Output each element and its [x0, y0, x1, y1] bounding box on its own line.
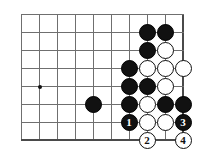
stone-white — [157, 78, 174, 95]
stone-white — [157, 60, 174, 77]
move-stone-white-4: 4 — [175, 132, 192, 149]
stone-white — [139, 114, 156, 131]
stone-black — [139, 42, 156, 59]
go-board: 1324 — [0, 0, 198, 158]
board-edge-line-horizontal — [21, 139, 185, 141]
stone-black — [121, 60, 138, 77]
move-stone-white-2: 2 — [139, 132, 156, 149]
stone-white — [139, 96, 156, 113]
move-stone-black-3: 3 — [175, 114, 192, 131]
stone-white — [157, 42, 174, 59]
stone-black — [121, 78, 138, 95]
move-number-label: 2 — [144, 134, 150, 145]
move-number-label: 4 — [180, 134, 186, 145]
hoshi-star-point — [38, 85, 42, 89]
stone-white — [157, 114, 174, 131]
stone-black — [139, 24, 156, 41]
stone-black — [121, 96, 138, 113]
stone-white — [175, 60, 192, 77]
stone-black — [175, 96, 192, 113]
stone-black — [157, 96, 174, 113]
move-number-label: 3 — [180, 116, 186, 127]
stone-black — [157, 24, 174, 41]
stone-white — [139, 60, 156, 77]
move-stone-black-1: 1 — [121, 114, 138, 131]
stone-black — [139, 78, 156, 95]
move-number-label: 1 — [126, 116, 132, 127]
grid-line-horizontal — [21, 14, 184, 15]
stone-black — [85, 96, 102, 113]
